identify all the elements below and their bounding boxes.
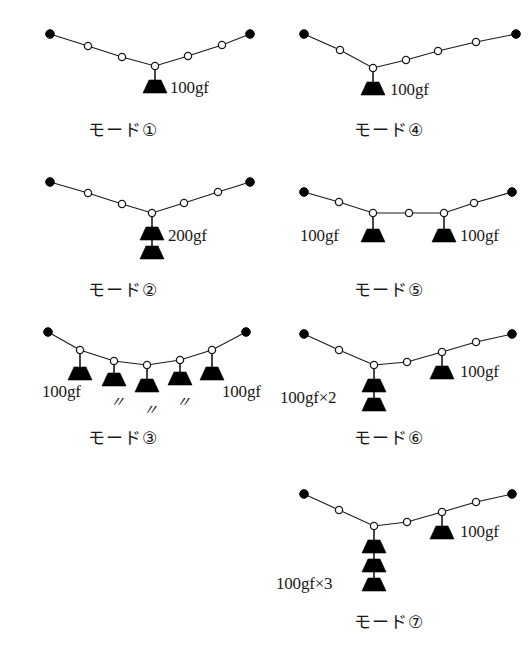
end-anchor <box>300 30 309 39</box>
cable-joint <box>118 200 125 207</box>
load-label: 100gf <box>222 382 261 402</box>
weight-block <box>361 82 385 95</box>
cable-joint <box>434 47 441 54</box>
mode-caption: モード⑥ <box>354 424 424 449</box>
weight-block <box>362 540 386 553</box>
cable-joint <box>148 209 155 216</box>
weight-block <box>362 559 386 572</box>
weight-block <box>362 578 386 591</box>
weight-block <box>432 229 456 242</box>
load-group <box>362 526 386 591</box>
weight-block <box>140 227 164 240</box>
load-label: 100gf <box>460 226 499 246</box>
load-label: 100gf <box>42 382 81 402</box>
end-anchor <box>246 178 255 187</box>
cable-joint <box>214 188 221 195</box>
cable-joint <box>369 64 376 71</box>
mode-3-diagram <box>0 310 266 500</box>
load-label: 100gf <box>300 226 339 246</box>
cable-joint <box>472 338 479 345</box>
cable-joint <box>470 199 477 206</box>
load-label: 200gf <box>168 226 207 246</box>
cable-joint <box>440 209 447 216</box>
cable-joint <box>405 209 412 216</box>
mode-panel <box>266 470 532 630</box>
load-label: 100gf <box>460 522 499 542</box>
end-anchor <box>44 328 53 337</box>
cable-joint <box>472 38 479 45</box>
mode-caption: モード⑦ <box>354 608 424 633</box>
cable-joint <box>370 522 377 529</box>
weight-block <box>362 379 386 392</box>
cable-joint <box>184 52 191 59</box>
cable-joint <box>151 62 158 69</box>
weight-block <box>361 229 385 242</box>
end-anchor <box>300 490 309 499</box>
end-anchor <box>512 30 521 39</box>
load-group <box>200 350 224 380</box>
cable-joint <box>110 357 117 364</box>
load-group <box>68 350 92 380</box>
cable-joint <box>180 199 187 206</box>
cable-joint <box>335 506 342 513</box>
cable-joint <box>369 209 376 216</box>
load-label-ditto: 〃 <box>143 398 158 419</box>
end-anchor <box>46 30 55 39</box>
weight-block <box>140 246 164 259</box>
cable-joint <box>208 346 215 353</box>
load-label-ditto: 〃 <box>110 390 125 411</box>
mode-caption: モード③ <box>88 424 158 449</box>
load-group <box>362 365 386 411</box>
weight-block <box>362 398 386 411</box>
mode-caption: モード④ <box>354 116 424 141</box>
cable-joint <box>370 361 377 368</box>
cable-joint <box>143 361 150 368</box>
load-label: 100gf <box>170 78 209 98</box>
cable-line <box>50 182 250 213</box>
cable-joint <box>403 358 410 365</box>
end-anchor <box>242 328 251 337</box>
weight-block <box>102 373 126 386</box>
weight-block <box>430 526 454 539</box>
figure-canvas: 100gfモード①200gfモード②100gf〃〃〃100gfモード③100gf… <box>0 0 532 662</box>
cable-joint <box>218 41 225 48</box>
cable-line <box>50 34 250 66</box>
load-group <box>361 213 385 242</box>
end-anchor <box>508 330 517 339</box>
cable-joint <box>335 198 342 205</box>
weight-block <box>200 367 224 380</box>
end-anchor <box>508 490 517 499</box>
mode-caption: モード② <box>88 276 158 301</box>
cable-joint <box>335 346 342 353</box>
load-group <box>140 213 164 259</box>
cable-joint <box>84 189 91 196</box>
weight-block <box>168 372 192 385</box>
cable-joint <box>403 518 410 525</box>
end-anchor <box>246 30 255 39</box>
weight-block <box>135 379 159 392</box>
end-anchor <box>508 188 517 197</box>
weight-block <box>430 366 454 379</box>
cable-joint <box>438 508 445 515</box>
end-anchor <box>46 178 55 187</box>
cable-joint <box>176 356 183 363</box>
weight-block <box>68 367 92 380</box>
cable-joint <box>402 56 409 63</box>
end-anchor <box>300 330 309 339</box>
load-label: 100gf×3 <box>276 574 332 594</box>
cable-joint <box>118 53 125 60</box>
cable-joint <box>84 42 91 49</box>
load-label-ditto: 〃 <box>176 390 191 411</box>
cable-joint <box>472 498 479 505</box>
cable-joint <box>336 46 343 53</box>
cable-line <box>304 34 516 68</box>
mode-caption: モード⑤ <box>354 276 424 301</box>
cable-joint <box>438 348 445 355</box>
load-label: 100gf×2 <box>280 388 336 408</box>
cable-joint <box>76 346 83 353</box>
weight-block <box>143 80 167 93</box>
mode-caption: モード① <box>88 116 158 141</box>
load-label: 100gf <box>390 80 429 100</box>
end-anchor <box>300 188 309 197</box>
load-group <box>432 213 456 242</box>
